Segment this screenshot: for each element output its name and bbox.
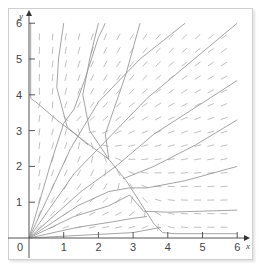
x-tick-label: 5: [200, 241, 206, 253]
direction-arrow: [182, 76, 188, 80]
direction-arrow: [182, 48, 187, 53]
direction-arrow: [49, 226, 55, 229]
direction-arrow: [117, 47, 121, 53]
direction-arrow: [143, 61, 148, 66]
direction-arrow: [208, 103, 214, 106]
direction-arrow: [128, 226, 135, 228]
direction-arrow: [65, 129, 67, 136]
direction-arrow: [208, 76, 214, 80]
direction-arrow: [130, 34, 134, 40]
direction-arrow: [142, 185, 149, 187]
direction-arrow: [118, 183, 120, 190]
direction-arrow: [77, 102, 80, 108]
direction-arrow: [143, 34, 147, 40]
direction-arrow: [117, 61, 121, 67]
direction-arrow: [65, 88, 67, 95]
direction-arrow: [115, 227, 122, 228]
direction-arrow: [208, 35, 213, 39]
direction-arrow: [194, 117, 200, 120]
direction-arrow: [129, 211, 134, 215]
direction-arrow: [39, 183, 40, 190]
direction-arrow: [89, 131, 96, 132]
trajectory-traj-right-1: [123, 120, 238, 179]
direction-arrow: [181, 145, 188, 147]
direction-arrow: [142, 198, 147, 203]
direction-arrow: [91, 61, 94, 67]
direction-arrow: [115, 212, 121, 216]
direction-arrow: [63, 197, 68, 202]
direction-arrow: [221, 172, 228, 173]
direction-arrow: [65, 47, 66, 54]
direction-arrow: [52, 61, 53, 68]
direction-arrow: [155, 199, 162, 201]
trajectory-traj-diag-3: [29, 23, 237, 238]
direction-arrow: [221, 131, 228, 133]
direction-arrow: [195, 90, 201, 93]
direction-arrow: [89, 212, 95, 215]
direction-arrow: [103, 183, 107, 189]
direction-arrow: [103, 198, 108, 203]
direction-arrow: [143, 48, 147, 53]
direction-arrow: [155, 212, 161, 216]
phase-plane-chart: 123456 123456 0 x y: [0, 0, 263, 268]
direction-arrow: [90, 102, 94, 108]
direction-arrow: [52, 142, 54, 149]
direction-arrow: [155, 159, 162, 160]
direction-arrow: [156, 62, 161, 67]
direction-arrow: [78, 74, 80, 81]
direction-arrow: [195, 76, 201, 80]
direction-arrow: [65, 33, 66, 40]
direction-arrow: [52, 33, 53, 40]
trajectory-traj-diag-1: [29, 23, 105, 238]
x-tick-label: 4: [165, 241, 171, 253]
direction-arrow: [181, 173, 188, 174]
direction-arrow: [76, 198, 81, 203]
direction-arrow: [116, 116, 122, 120]
direction-arrow: [115, 145, 122, 146]
direction-arrow: [207, 131, 214, 133]
direction-arrow: [128, 172, 134, 175]
direction-arrow: [64, 170, 67, 176]
direction-arrow: [78, 61, 80, 68]
direction-arrow: [169, 62, 174, 67]
direction-arrow: [142, 89, 147, 94]
direction-arrow: [104, 75, 108, 81]
direction-arrow: [208, 90, 214, 93]
direction-arrow: [221, 103, 227, 106]
direction-arrow: [105, 169, 107, 176]
direction-arrow: [195, 62, 201, 66]
direction-arrow: [168, 103, 174, 106]
x-tick-label: 6: [234, 241, 240, 253]
direction-arrow: [51, 170, 53, 177]
y-tick-label: 3: [16, 125, 22, 137]
direction-arrow: [207, 145, 214, 147]
y-tick-label: 2: [16, 160, 22, 172]
trajectory-traj-diag-2: [29, 23, 185, 238]
direction-arrow: [208, 62, 214, 66]
direction-arrow: [129, 75, 134, 80]
direction-arrow: [39, 115, 40, 122]
direction-arrow: [194, 131, 201, 133]
direction-arrow: [77, 116, 82, 121]
direction-arrow: [104, 47, 107, 53]
direction-arrow: [141, 159, 148, 160]
direction-arrow: [90, 88, 93, 94]
direction-arrow: [62, 226, 69, 228]
direction-arrow: [78, 47, 80, 54]
direction-arrow: [90, 116, 95, 121]
direction-arrow: [208, 117, 215, 119]
direction-arrow: [181, 117, 187, 120]
direction-arrow: [129, 131, 135, 134]
trajectory-traj-top-3: [105, 23, 140, 159]
direction-arrow: [168, 117, 174, 120]
direction-arrow: [156, 34, 160, 39]
direction-arrow: [78, 33, 80, 40]
direction-arrow: [221, 76, 227, 79]
direction-arrow: [65, 61, 66, 68]
direction-arrow: [168, 200, 175, 201]
direction-arrow: [103, 102, 108, 107]
direction-arrow: [156, 48, 161, 53]
direction-field: [37, 33, 228, 230]
direction-arrow: [104, 34, 107, 40]
direction-arrow: [89, 226, 96, 228]
